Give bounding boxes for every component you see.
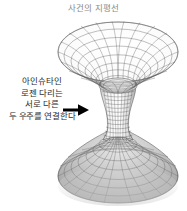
caption-line-2: 로젠 다리는: [0, 88, 84, 100]
caption-line-1: 아인슈타인: [0, 76, 84, 88]
wormhole-figure: 사건의 지평선 아인슈타인 로젠 다리는 서로 다른 두 우주를 연결한다: [0, 0, 187, 211]
arrow-right-icon: [63, 103, 90, 117]
page-title: 사건의 지평선: [0, 1, 187, 13]
